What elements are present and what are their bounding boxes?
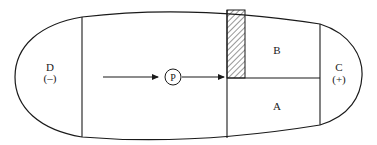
particle-label: P (170, 72, 176, 83)
hatched-barrier (227, 10, 245, 78)
region-a-label: A (273, 100, 281, 112)
region-b-label: B (273, 44, 280, 56)
diagram-canvas: P D (–) B A C (+) (0, 0, 377, 145)
region-d-sign: (–) (44, 72, 57, 85)
region-c-sign: (+) (332, 73, 346, 86)
capsule-outline (15, 12, 362, 140)
region-c-label: C (335, 61, 342, 73)
